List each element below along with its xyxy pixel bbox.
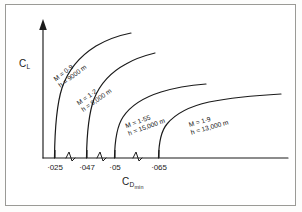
x-axis-title-subsub: min — [134, 184, 143, 190]
y-axis — [39, 19, 47, 158]
plot-canvas — [0, 0, 302, 212]
y-axis-arrowhead — [39, 19, 47, 30]
tick-label-3: ·05 — [109, 163, 120, 172]
tick-label-1: ·025 — [47, 163, 63, 172]
axis-break-mark — [133, 152, 142, 161]
figure-root: CL CDmin ·025 ·047 ·05 ·065 M = 0·9 h = … — [0, 0, 302, 212]
y-axis-title-sub: L — [26, 63, 30, 70]
y-axis-title: CL — [19, 58, 30, 70]
tick-label-2: ·047 — [79, 163, 95, 172]
curve-m12-h9000 — [87, 53, 156, 158]
axis-break-mark — [66, 152, 75, 161]
tick-label-4: ·065 — [151, 163, 167, 172]
x-axis-title: CDmin — [122, 176, 144, 190]
x-axis-title-sub: Dmin — [129, 181, 143, 188]
axis-break-marks — [66, 152, 142, 161]
axis-break-mark — [97, 152, 106, 161]
